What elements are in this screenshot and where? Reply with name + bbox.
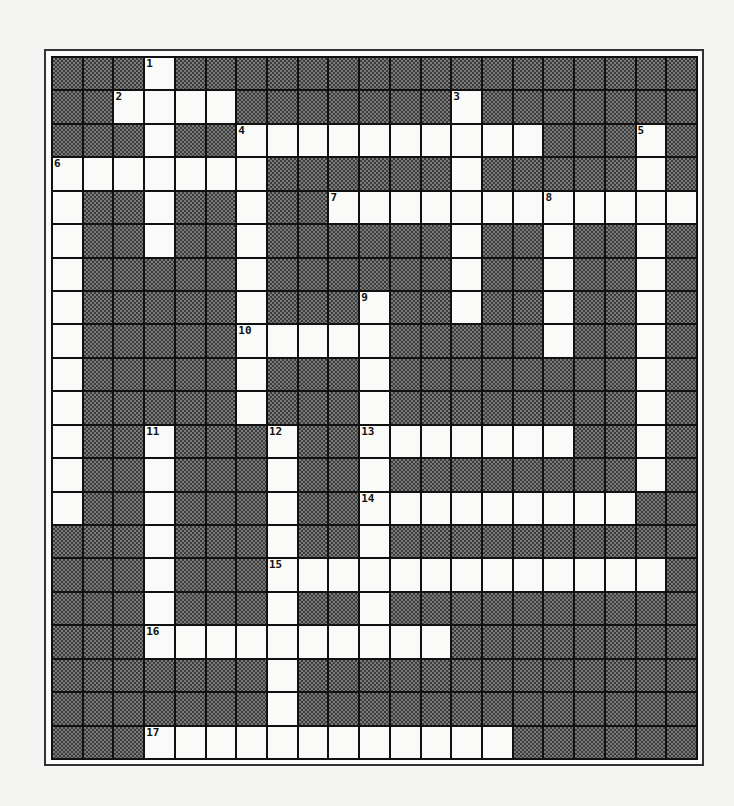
answer-cell[interactable]: [329, 727, 358, 758]
answer-cell[interactable]: [360, 593, 389, 624]
answer-cell[interactable]: [637, 192, 666, 223]
answer-cell[interactable]: [360, 559, 389, 590]
answer-cell[interactable]: [207, 91, 236, 122]
answer-cell[interactable]: [53, 459, 82, 490]
answer-cell[interactable]: [329, 325, 358, 356]
answer-cell[interactable]: [483, 727, 512, 758]
answer-cell[interactable]: 1: [145, 58, 174, 89]
answer-cell[interactable]: [452, 426, 481, 457]
answer-cell[interactable]: [422, 559, 451, 590]
answer-cell[interactable]: [391, 125, 420, 156]
answer-cell[interactable]: [268, 660, 297, 691]
answer-cell[interactable]: [329, 626, 358, 657]
answer-cell[interactable]: [268, 626, 297, 657]
answer-cell[interactable]: [422, 727, 451, 758]
answer-cell[interactable]: [452, 493, 481, 524]
answer-cell[interactable]: [452, 292, 481, 323]
answer-cell[interactable]: [637, 259, 666, 290]
answer-cell[interactable]: [452, 559, 481, 590]
answer-cell[interactable]: [360, 626, 389, 657]
answer-cell[interactable]: 5: [637, 125, 666, 156]
answer-cell[interactable]: [237, 392, 266, 423]
answer-cell[interactable]: 12: [268, 426, 297, 457]
answer-cell[interactable]: [145, 91, 174, 122]
answer-cell[interactable]: [268, 693, 297, 724]
answer-cell[interactable]: [268, 593, 297, 624]
answer-cell[interactable]: 10: [237, 325, 266, 356]
answer-cell[interactable]: [422, 626, 451, 657]
answer-cell[interactable]: 11: [145, 426, 174, 457]
answer-cell[interactable]: [360, 192, 389, 223]
answer-cell[interactable]: [268, 526, 297, 557]
answer-cell[interactable]: [207, 626, 236, 657]
answer-cell[interactable]: [575, 559, 604, 590]
answer-cell[interactable]: [544, 325, 573, 356]
answer-cell[interactable]: [514, 559, 543, 590]
answer-cell[interactable]: 15: [268, 559, 297, 590]
answer-cell[interactable]: [606, 493, 635, 524]
answer-cell[interactable]: [483, 426, 512, 457]
answer-cell[interactable]: [360, 392, 389, 423]
answer-cell[interactable]: [544, 225, 573, 256]
answer-cell[interactable]: [360, 359, 389, 390]
answer-cell[interactable]: [237, 626, 266, 657]
answer-cell[interactable]: [237, 359, 266, 390]
answer-cell[interactable]: [329, 559, 358, 590]
answer-cell[interactable]: [53, 426, 82, 457]
answer-cell[interactable]: [422, 426, 451, 457]
answer-cell[interactable]: [452, 225, 481, 256]
answer-cell[interactable]: 6: [53, 158, 82, 189]
answer-cell[interactable]: 16: [145, 626, 174, 657]
answer-cell[interactable]: [391, 192, 420, 223]
answer-cell[interactable]: [667, 192, 696, 223]
answer-cell[interactable]: [391, 727, 420, 758]
answer-cell[interactable]: [483, 125, 512, 156]
answer-cell[interactable]: [637, 225, 666, 256]
answer-cell[interactable]: 8: [544, 192, 573, 223]
answer-cell[interactable]: [452, 158, 481, 189]
answer-cell[interactable]: [176, 626, 205, 657]
answer-cell[interactable]: [268, 493, 297, 524]
answer-cell[interactable]: [575, 192, 604, 223]
answer-cell[interactable]: [145, 526, 174, 557]
answer-cell[interactable]: [544, 493, 573, 524]
answer-cell[interactable]: [53, 493, 82, 524]
answer-cell[interactable]: [53, 292, 82, 323]
answer-cell[interactable]: [637, 559, 666, 590]
answer-cell[interactable]: [514, 426, 543, 457]
answer-cell[interactable]: [268, 125, 297, 156]
answer-cell[interactable]: [237, 225, 266, 256]
answer-cell[interactable]: [53, 192, 82, 223]
answer-cell[interactable]: [299, 325, 328, 356]
answer-cell[interactable]: [452, 727, 481, 758]
answer-cell[interactable]: [268, 459, 297, 490]
answer-cell[interactable]: [53, 359, 82, 390]
answer-cell[interactable]: [299, 626, 328, 657]
answer-cell[interactable]: 14: [360, 493, 389, 524]
answer-cell[interactable]: [268, 325, 297, 356]
answer-cell[interactable]: 7: [329, 192, 358, 223]
answer-cell[interactable]: [544, 292, 573, 323]
answer-cell[interactable]: [483, 493, 512, 524]
answer-cell[interactable]: [268, 727, 297, 758]
answer-cell[interactable]: [637, 158, 666, 189]
answer-cell[interactable]: [514, 125, 543, 156]
answer-cell[interactable]: 2: [114, 91, 143, 122]
answer-cell[interactable]: 4: [237, 125, 266, 156]
answer-cell[interactable]: [145, 192, 174, 223]
answer-cell[interactable]: [391, 559, 420, 590]
answer-cell[interactable]: 13: [360, 426, 389, 457]
answer-cell[interactable]: [145, 593, 174, 624]
answer-cell[interactable]: [544, 259, 573, 290]
answer-cell[interactable]: [637, 392, 666, 423]
answer-cell[interactable]: [299, 559, 328, 590]
answer-cell[interactable]: [391, 626, 420, 657]
answer-cell[interactable]: [207, 158, 236, 189]
answer-cell[interactable]: [360, 125, 389, 156]
answer-cell[interactable]: [145, 459, 174, 490]
answer-cell[interactable]: [514, 493, 543, 524]
answer-cell[interactable]: [391, 493, 420, 524]
answer-cell[interactable]: [360, 459, 389, 490]
answer-cell[interactable]: [176, 158, 205, 189]
answer-cell[interactable]: [145, 225, 174, 256]
